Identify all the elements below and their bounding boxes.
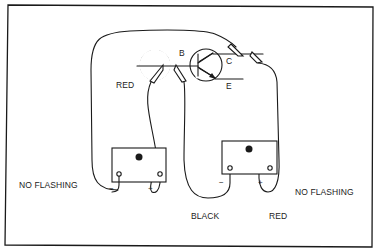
- right-battery-minus: −: [219, 178, 224, 187]
- red-bottom-label: RED: [269, 211, 287, 221]
- collector-label: C: [226, 56, 232, 66]
- base-label: B: [179, 48, 185, 58]
- black-label: BLACK: [191, 211, 219, 221]
- emitter-label: E: [226, 81, 232, 91]
- left-battery-plus: +: [148, 184, 153, 193]
- no-flashing-left-label: NO FLASHING: [19, 180, 78, 190]
- left-battery-minus: −: [109, 184, 114, 193]
- left-battery: [112, 148, 166, 182]
- no-flashing-right-label: NO FLASHING: [295, 187, 354, 197]
- circuit-wiring: [0, 0, 380, 251]
- right-battery-plus: +: [258, 178, 263, 187]
- red-left-label: RED: [116, 80, 134, 90]
